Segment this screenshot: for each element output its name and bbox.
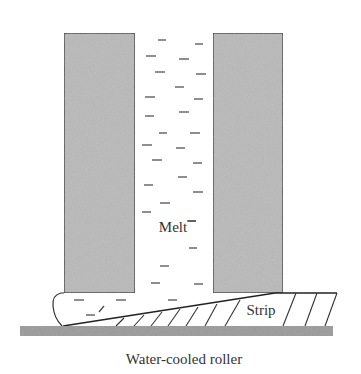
cooling-roller — [20, 326, 333, 336]
strip-label: Strip — [246, 302, 275, 318]
melt-label: Melt — [159, 219, 188, 235]
melt-pool-outline — [53, 293, 64, 326]
melt-spinning-diagram: Melt Strip Water-cooled roller — [0, 0, 361, 374]
right-crucible-wall — [213, 33, 283, 293]
roller-caption: Water-cooled roller — [126, 351, 242, 367]
left-crucible-wall — [64, 33, 135, 293]
solidified-strip — [63, 293, 337, 326]
